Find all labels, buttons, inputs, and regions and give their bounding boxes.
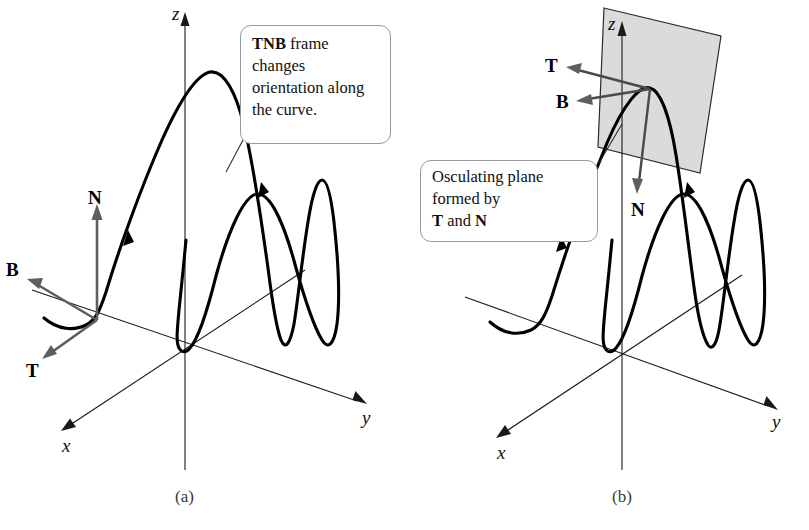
- panel-b-y-axis-label: y: [770, 411, 781, 432]
- callout-b-line3: T and N: [432, 210, 587, 232]
- callout-b-line2: formed by: [432, 188, 587, 210]
- callout-b-and: and: [443, 211, 475, 230]
- panel-a-graphics: z y x N: [0, 0, 809, 530]
- panel-a-vector-B-label: B: [6, 259, 19, 280]
- panel-a-x-axis-label: x: [61, 435, 71, 456]
- callout-b-bold-T: T: [432, 211, 443, 230]
- panel-b-vector-T-label: T: [545, 55, 558, 76]
- panel-a-vector-T-label: T: [26, 360, 39, 381]
- callout-tnb-frame: TNB frame changes orientation along the …: [240, 25, 391, 144]
- panel-b-caption: (b): [612, 487, 632, 507]
- panel-b-z-axis-label: z: [607, 13, 616, 34]
- panel-a-callout-leader: [226, 140, 243, 172]
- panel-b-osculating-plane: [598, 8, 721, 173]
- panel-a-y-axis-label: y: [360, 407, 371, 428]
- panel-b-y-axis: y: [465, 297, 781, 432]
- callout-osculating-plane: Osculating plane formed by T and N: [420, 160, 598, 242]
- panel-b-vector-B-label: B: [556, 91, 569, 112]
- panel-a-z-axis: z: [171, 3, 190, 470]
- panel-a-vector-T: T: [26, 320, 97, 381]
- panel-b-x-axis: x: [496, 275, 742, 463]
- tnb-frame-figure: z y x N: [0, 0, 809, 530]
- panel-a-caption: (a): [175, 487, 194, 507]
- panel-b-vector-N-label: N: [631, 199, 645, 220]
- callout-b-bold-N: N: [475, 211, 487, 230]
- panel-a-vector-N-label: N: [88, 187, 102, 208]
- panel-a-vector-N: N: [88, 187, 103, 320]
- callout-a-bold-lead: TNB: [252, 34, 286, 53]
- panel-a-z-axis-label: z: [171, 3, 180, 24]
- panel-a-tnb-frame: N B T: [6, 187, 103, 381]
- callout-b-line1: Osculating plane: [432, 166, 587, 188]
- panel-b-x-axis-label: x: [496, 442, 506, 463]
- panel-a-vector-B: B: [6, 259, 97, 320]
